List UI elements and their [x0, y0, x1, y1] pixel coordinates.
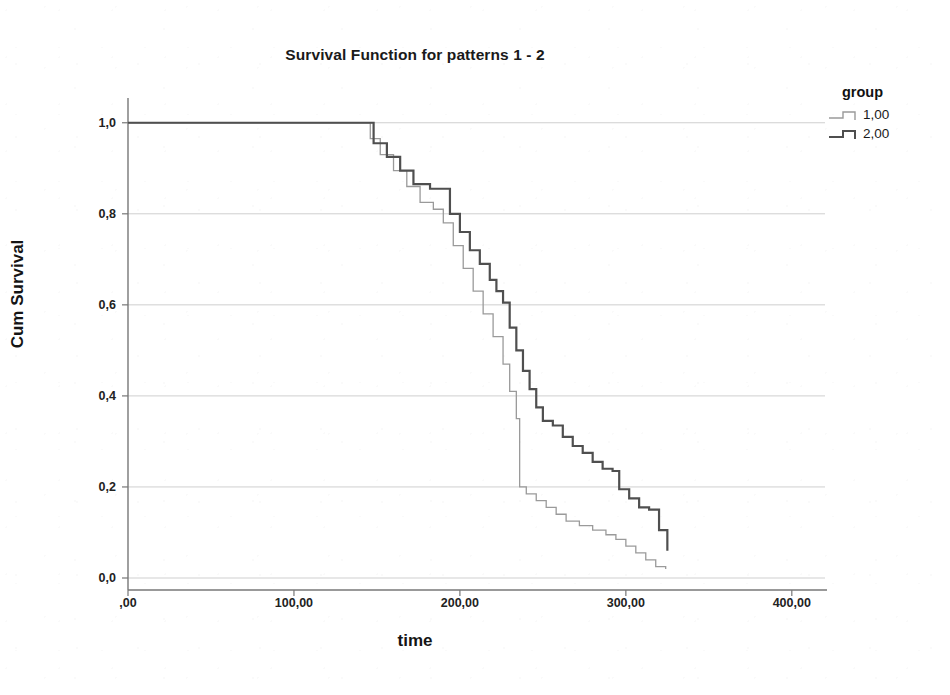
legend: group 1,00 2,00 [828, 84, 948, 143]
x-tick-label: 400,00 [747, 596, 837, 610]
axis-lines [128, 98, 827, 590]
y-axis-title: Cum Survival [8, 24, 28, 564]
y-tick-label: 0,0 [70, 571, 116, 585]
chart-title: Survival Function for patterns 1 - 2 [0, 46, 830, 64]
y-axis-tick-labels: 0,00,20,40,60,81,0 [70, 100, 116, 578]
y-tick-label: 0,4 [70, 389, 116, 403]
x-tick-label: 200,00 [415, 596, 505, 610]
y-tick-label: 0,6 [70, 298, 116, 312]
legend-title: group [842, 84, 948, 100]
legend-step-marker-2 [828, 126, 862, 142]
x-tick-label: 300,00 [581, 596, 671, 610]
legend-label-2: 2,00 [863, 126, 889, 141]
x-axis-title: time [0, 631, 830, 651]
y-tick-label: 0,2 [70, 480, 116, 494]
plot-svg [128, 100, 825, 578]
gridlines [128, 123, 825, 578]
x-axis-tick-labels: ,00100,00200,00300,00400,00 [128, 596, 825, 616]
x-tick-label: ,00 [83, 596, 173, 610]
legend-item-2[interactable]: 2,00 [828, 124, 948, 143]
survival-chart-figure: Survival Function for patterns 1 - 2 Cum… [0, 0, 950, 695]
y-tick-label: 1,0 [70, 116, 116, 130]
x-tick-label: 100,00 [249, 596, 339, 610]
legend-label-1: 1,00 [863, 107, 889, 122]
legend-item-1[interactable]: 1,00 [828, 105, 948, 124]
y-tick-label: 0,8 [70, 207, 116, 221]
plot-area [128, 100, 825, 578]
axis-tick-marks [122, 123, 792, 596]
series-line-1 [128, 123, 666, 569]
legend-step-marker-1 [828, 107, 862, 123]
series-lines [128, 123, 667, 569]
